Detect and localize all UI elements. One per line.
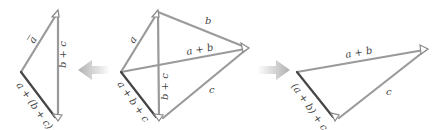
label-c: c xyxy=(209,84,215,95)
svg-text:a: a xyxy=(26,34,39,45)
arrow-to-left-icon xyxy=(78,60,110,80)
vector-addition-diagram: a b + c a + (b + c) a b a + b xyxy=(0,0,435,130)
svg-text:a: a xyxy=(126,34,139,45)
edge-a xyxy=(21,15,56,72)
arrow-to-right-icon xyxy=(257,60,290,80)
svg-text:b: b xyxy=(205,15,211,26)
svg-text:a + (b + c): a + (b + c) xyxy=(14,80,55,130)
arrowhead-icon xyxy=(152,10,159,17)
arrowhead-icon xyxy=(241,43,249,52)
label-a: a xyxy=(126,34,139,45)
edge-a xyxy=(121,15,156,72)
label-a: a xyxy=(26,34,39,45)
center-quadrilateral: a b a + b c b + c a + b + c xyxy=(115,10,249,124)
svg-text:c: c xyxy=(386,86,392,97)
edge-c xyxy=(339,49,427,118)
left-triangle: a b + c a + (b + c) xyxy=(14,10,68,130)
label-resultant: a + b + c xyxy=(115,79,151,124)
arrowhead-icon xyxy=(52,10,59,17)
svg-text:b + c: b + c xyxy=(159,73,170,100)
label-a-plus-b: a + b xyxy=(344,44,373,60)
label-b-plus-c: b + c xyxy=(159,73,170,100)
edge-c xyxy=(163,48,248,118)
edge-b-plus-c xyxy=(158,12,159,117)
label-b-plus-c: b + c xyxy=(57,41,68,68)
edge-b xyxy=(158,12,245,47)
label-b: b xyxy=(205,15,211,26)
label-c: c xyxy=(386,86,392,97)
label-resultant: a + (b + c) xyxy=(14,80,55,130)
edge-a-plus-b xyxy=(121,49,245,72)
svg-text:c: c xyxy=(209,84,215,95)
svg-text:b + c: b + c xyxy=(57,41,68,68)
right-triangle: a + b c (a + b) + c xyxy=(289,44,428,130)
svg-text:a + b + c: a + b + c xyxy=(115,79,151,124)
svg-text:a + b: a + b xyxy=(344,44,373,60)
